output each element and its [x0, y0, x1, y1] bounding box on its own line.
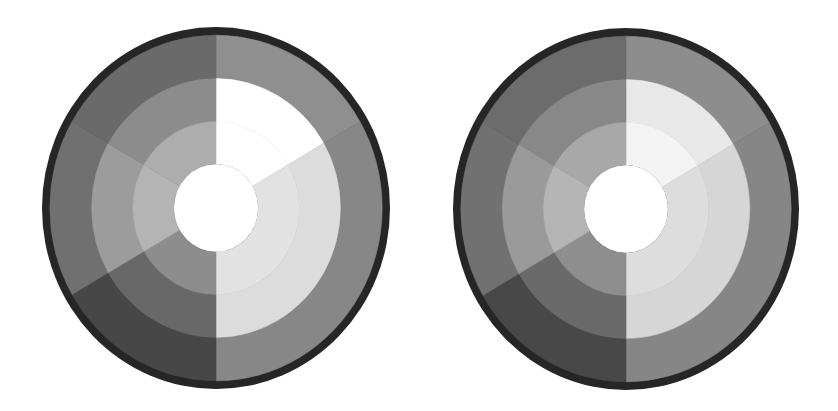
center-hole: [584, 165, 668, 253]
concentric-wheels-diagram: [0, 0, 838, 411]
diagram-canvas: [0, 0, 838, 411]
center-hole: [174, 164, 258, 252]
right-wheel: [453, 28, 799, 390]
left-wheel: [42, 27, 390, 389]
